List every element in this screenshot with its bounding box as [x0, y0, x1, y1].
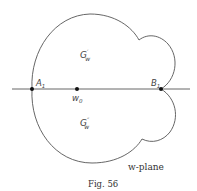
figure-caption: Fig. 56 — [88, 179, 118, 189]
point-a1-label: A1 — [35, 78, 45, 89]
point-w0-label: w0 — [72, 93, 83, 104]
plane-label: w-plane — [128, 162, 164, 172]
lower-region-label: G″w — [80, 116, 90, 130]
lower-region-boundary — [32, 89, 176, 163]
upper-region-label: G′w — [80, 48, 90, 62]
point-b1-label: B1 — [151, 78, 160, 89]
point-a1-dot — [30, 87, 34, 91]
point-w0-dot — [75, 87, 79, 91]
w-plane-diagram: A1 w0 B1 G′w G″w w-plane Fig. 56 — [0, 0, 197, 191]
